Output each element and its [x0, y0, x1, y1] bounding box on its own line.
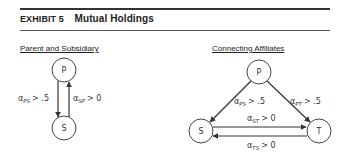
mutual-holdings-diagram: P S αPS> .5 αSP> 0 P S T αPS> .5 αPT> .5… [0, 0, 347, 162]
node-s-label: S [61, 124, 66, 133]
node-s-label: S [198, 127, 203, 136]
node-p-label: P [62, 66, 67, 75]
edge-label-sp: αSP> 0 [73, 94, 101, 104]
node-p-label: P [257, 68, 262, 77]
edge-label-ps: αPS> .5 [234, 97, 265, 107]
connecting-affiliates-diagram: P S T αPS> .5 αPT> .5 αST> 0 αTS> 0 [189, 60, 331, 151]
edge-label-st: αST> 0 [247, 114, 275, 124]
parent-subsidiary-diagram: P S αPS> .5 αSP> 0 [18, 58, 101, 140]
node-t-label: T [316, 127, 322, 136]
edge-label-ps: αPS> .5 [18, 94, 49, 104]
edge-label-ts: αTS> 0 [247, 141, 275, 151]
edge-label-pt: αPT> .5 [290, 97, 321, 107]
